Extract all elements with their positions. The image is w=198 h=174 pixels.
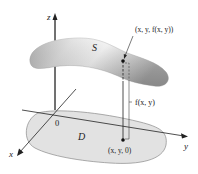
surface-shading (30, 38, 168, 86)
surface-over-region-diagram: z y x 0 S D (x, y, f(x, y)) f(x, y) (x, … (0, 0, 198, 174)
height-label: f(x, y) (135, 98, 155, 107)
surface-point-label: (x, y, f(x, y)) (135, 25, 174, 34)
base-point (121, 138, 125, 142)
surface-label: S (92, 42, 97, 53)
base-point-label: (x, y, 0) (108, 146, 132, 155)
region-d (26, 111, 166, 164)
region-label: D (77, 131, 86, 142)
z-axis-label: z (46, 12, 51, 22)
surface-point (121, 59, 125, 63)
y-axis-arrow-icon (181, 133, 188, 138)
x-axis-label: x (8, 149, 13, 159)
y-axis-label: y (183, 141, 188, 151)
surface-point-leader (125, 36, 133, 56)
origin-label: 0 (55, 118, 59, 128)
